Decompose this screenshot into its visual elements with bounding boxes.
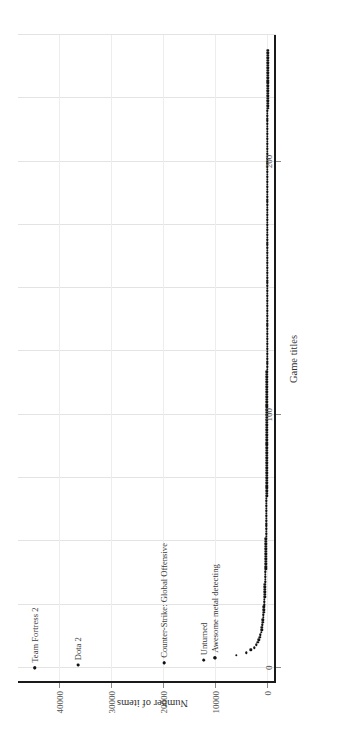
data-point <box>258 636 261 639</box>
data-point <box>266 82 269 85</box>
data-point <box>262 618 265 621</box>
data-point <box>266 302 269 305</box>
data-point <box>266 380 269 383</box>
data-point <box>264 578 267 581</box>
data-point <box>265 548 268 551</box>
data-point <box>265 497 268 500</box>
vertical-gridline <box>18 224 276 225</box>
data-point <box>266 444 269 447</box>
x-axis-line <box>274 35 276 683</box>
x-axis-label: Game titles <box>288 35 299 683</box>
data-point <box>266 54 269 57</box>
y-tick <box>111 683 112 688</box>
data-point <box>266 132 269 135</box>
data-point <box>266 175 269 178</box>
data-point <box>266 203 269 206</box>
data-point <box>265 535 268 538</box>
data-point <box>266 426 269 429</box>
horizontal-gridline <box>59 35 60 683</box>
data-point <box>263 596 266 599</box>
data-point <box>266 350 269 353</box>
data-point <box>264 588 267 591</box>
data-point <box>265 499 268 502</box>
plot-area: Team Fortress 2Dota 2Counter-Strike: Glo… <box>18 35 276 683</box>
annotation-marker <box>77 664 80 667</box>
data-point <box>265 494 268 497</box>
data-point <box>266 373 269 376</box>
data-point <box>266 188 269 191</box>
data-point <box>266 386 269 389</box>
data-point <box>266 229 269 232</box>
data-point <box>265 467 268 470</box>
data-point <box>266 403 269 406</box>
y-tick <box>215 683 216 688</box>
vertical-gridline <box>18 97 276 98</box>
data-point <box>266 102 269 105</box>
data-point <box>266 201 269 204</box>
data-point <box>255 644 258 647</box>
data-point <box>265 527 268 530</box>
data-point <box>266 355 269 358</box>
vertical-gridline <box>18 477 276 478</box>
vertical-gridline <box>18 34 276 35</box>
data-point <box>266 241 269 244</box>
data-point <box>266 424 269 427</box>
data-point <box>266 206 269 209</box>
data-point <box>266 429 269 432</box>
data-point <box>265 454 268 457</box>
data-point <box>266 325 269 328</box>
data-point <box>266 211 269 214</box>
data-point <box>266 383 269 386</box>
data-point <box>263 606 266 609</box>
data-point <box>265 512 268 515</box>
data-point <box>266 92 269 95</box>
y-tick <box>267 683 268 688</box>
data-point <box>265 532 268 535</box>
data-point <box>266 277 269 280</box>
data-point <box>263 601 266 604</box>
data-point <box>266 294 269 297</box>
data-point <box>266 269 269 272</box>
data-point <box>265 525 268 528</box>
x-tick-label: 200 <box>264 155 274 169</box>
data-point <box>266 49 269 52</box>
data-point <box>266 251 269 254</box>
data-point <box>266 115 269 118</box>
data-point <box>262 616 265 619</box>
data-point <box>262 613 265 616</box>
data-point <box>266 388 269 391</box>
data-point <box>266 272 269 275</box>
data-point <box>266 224 269 227</box>
data-point <box>266 135 269 138</box>
data-point <box>266 148 269 151</box>
data-point <box>265 515 268 518</box>
data-point <box>263 608 266 611</box>
data-point <box>266 120 269 123</box>
rotated-figure-wrapper: Team Fortress 2Dota 2Counter-Strike: Glo… <box>0 0 347 735</box>
data-point <box>266 130 269 133</box>
y-axis-line <box>18 681 276 683</box>
data-point <box>266 186 269 189</box>
data-point <box>266 335 269 338</box>
data-point <box>264 565 267 568</box>
data-point <box>265 540 268 543</box>
data-point <box>266 398 269 401</box>
annotation-label: Awesome metal detecting <box>210 564 220 652</box>
data-point <box>262 611 265 614</box>
data-point <box>266 305 269 308</box>
vertical-gridline <box>18 604 276 605</box>
data-point <box>266 332 269 335</box>
data-point <box>265 484 268 487</box>
data-point <box>266 249 269 252</box>
x-tick-label: 0 <box>264 666 274 671</box>
data-point <box>266 84 269 87</box>
annotation-label: Team Fortress 2 <box>30 608 40 663</box>
vertical-gridline <box>18 287 276 288</box>
data-point <box>266 105 269 108</box>
data-point <box>266 320 269 323</box>
data-point <box>266 218 269 221</box>
y-tick <box>59 683 60 688</box>
data-point <box>266 370 269 373</box>
data-point <box>266 170 269 173</box>
data-point <box>265 553 268 556</box>
